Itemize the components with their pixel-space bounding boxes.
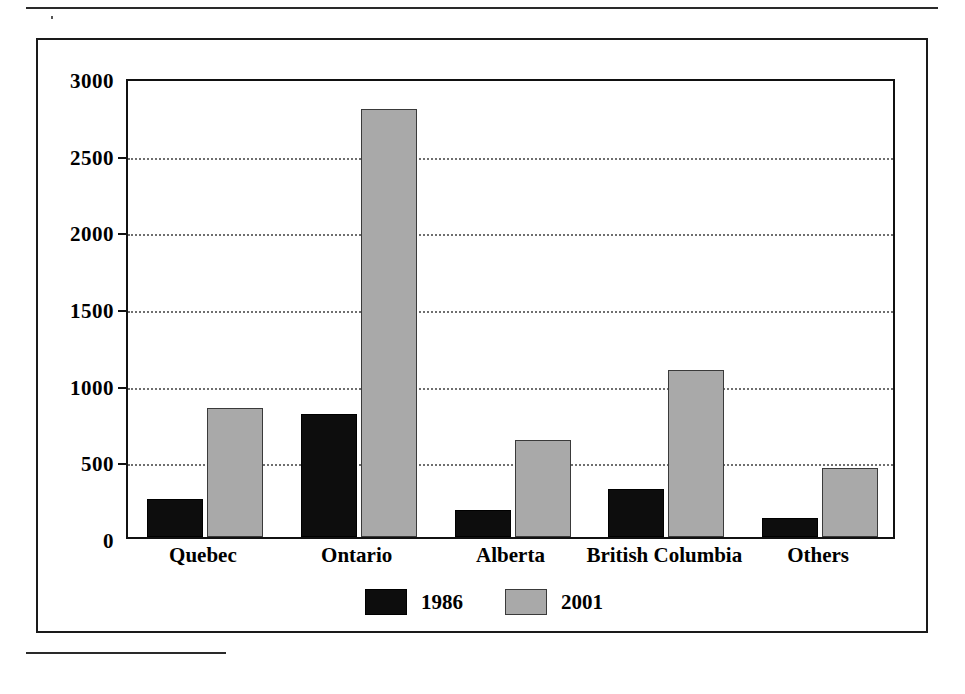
page-rule-top: [26, 7, 938, 9]
legend-swatch-1986: [365, 589, 407, 615]
y-tick-2500: [118, 157, 128, 159]
category-label-alberta: Alberta: [476, 543, 545, 568]
bar-british-columbia-2001: [668, 370, 724, 537]
bar-chart: 050010001500200025003000 QuebecOntarioAl…: [38, 40, 930, 635]
bars-group: [128, 81, 893, 537]
bar-quebec-2001: [207, 408, 263, 537]
y-tick-1000: [118, 387, 128, 389]
bar-others-2001: [822, 468, 878, 537]
y-tick-label-1000: 1000: [70, 375, 114, 400]
plot-area: 050010001500200025003000: [126, 79, 895, 539]
y-tick-label-2500: 2500: [70, 145, 114, 170]
category-label-quebec: Quebec: [169, 543, 237, 568]
x-axis-category-labels: QuebecOntarioAlbertaBritish ColumbiaOthe…: [126, 543, 895, 577]
y-tick-label-1500: 1500: [70, 299, 114, 324]
chart-legend: 19862001: [38, 589, 930, 615]
page-rule-bottom: [26, 652, 226, 654]
bar-quebec-1986: [147, 499, 203, 537]
bar-others-1986: [762, 518, 818, 537]
bar-alberta-2001: [515, 440, 571, 537]
legend-item-2001: 2001: [505, 589, 603, 615]
y-tick-label-500: 500: [81, 452, 114, 477]
y-tick-500: [118, 463, 128, 465]
category-label-british-columbia: British Columbia: [586, 543, 742, 568]
figure-frame: 050010001500200025003000 QuebecOntarioAl…: [36, 38, 928, 633]
y-tick-label-0: 0: [103, 529, 114, 554]
bar-alberta-1986: [455, 510, 511, 537]
category-label-others: Others: [787, 543, 849, 568]
bar-british-columbia-1986: [608, 489, 664, 537]
category-label-ontario: Ontario: [321, 543, 392, 568]
y-tick-label-2000: 2000: [70, 222, 114, 247]
legend-swatch-2001: [505, 589, 547, 615]
bar-ontario-2001: [361, 109, 417, 537]
legend-label-1986: 1986: [421, 590, 463, 615]
y-tick-2000: [118, 233, 128, 235]
legend-item-1986: 1986: [365, 589, 463, 615]
page-speck: [51, 16, 53, 19]
y-tick-1500: [118, 310, 128, 312]
legend-label-2001: 2001: [561, 590, 603, 615]
y-tick-label-3000: 3000: [70, 69, 114, 94]
bar-ontario-1986: [301, 414, 357, 537]
